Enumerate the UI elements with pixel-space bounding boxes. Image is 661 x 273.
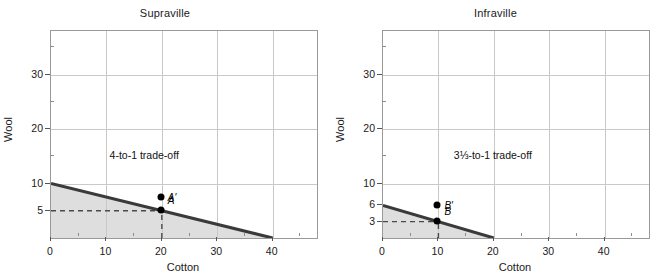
x-axis-title: Cotton bbox=[499, 261, 531, 273]
y-tick bbox=[377, 204, 382, 205]
y-tick-label: 3 bbox=[350, 215, 375, 227]
x-tick-label: 20 bbox=[487, 245, 499, 257]
x-tick bbox=[604, 237, 605, 241]
x-tick-label: 10 bbox=[432, 245, 444, 257]
y-tick bbox=[377, 74, 382, 75]
frontier-overlay bbox=[383, 31, 649, 238]
x-tick bbox=[272, 237, 273, 241]
x-minor-tick bbox=[78, 233, 79, 236]
x-minor-tick bbox=[410, 233, 411, 236]
x-tick-label: 10 bbox=[100, 245, 112, 257]
y-tick-label: 20 bbox=[18, 122, 43, 134]
y-axis-title: Wool bbox=[2, 117, 14, 142]
x-tick bbox=[105, 237, 106, 241]
x-minor-tick bbox=[133, 233, 134, 236]
x-tick bbox=[50, 237, 51, 241]
y-tick bbox=[377, 221, 382, 222]
data-point-label: A bbox=[168, 194, 175, 205]
x-tick-label: 0 bbox=[379, 245, 385, 257]
x-tick-label: 30 bbox=[542, 245, 554, 257]
tradeoff-annotation: 4-to-1 trade-off bbox=[110, 149, 179, 161]
y-tick-label: 10 bbox=[350, 177, 375, 189]
y-axis-title: Wool bbox=[334, 117, 346, 142]
y-tick-label: 30 bbox=[18, 68, 43, 80]
plot-area-supraville bbox=[50, 30, 318, 239]
x-tick bbox=[161, 237, 162, 241]
y-tick bbox=[377, 128, 382, 129]
x-tick-label: 30 bbox=[210, 245, 222, 257]
chart-panel-supraville: Supraville 4-to-1 trade-offA′A0102030405… bbox=[0, 0, 330, 273]
x-tick-label: 0 bbox=[47, 245, 53, 257]
x-tick-label: 20 bbox=[155, 245, 167, 257]
figure-panels: Supraville 4-to-1 trade-offA′A0102030405… bbox=[0, 0, 661, 273]
chart-title-infraville: Infraville bbox=[330, 7, 661, 19]
data-point-marker bbox=[157, 206, 164, 213]
x-minor-tick bbox=[244, 233, 245, 236]
x-minor-tick bbox=[576, 233, 577, 236]
frontier-overlay bbox=[51, 31, 317, 238]
x-minor-tick bbox=[465, 233, 466, 236]
x-minor-tick bbox=[631, 233, 632, 236]
x-tick bbox=[548, 237, 549, 241]
x-tick bbox=[437, 237, 438, 241]
data-point-marker bbox=[434, 217, 441, 224]
y-tick bbox=[45, 210, 50, 211]
y-tick bbox=[45, 74, 50, 75]
y-minor-tick bbox=[382, 101, 386, 102]
data-point-marker bbox=[157, 193, 164, 200]
y-minor-tick bbox=[50, 101, 54, 102]
x-tick bbox=[216, 237, 217, 241]
y-tick-label: 20 bbox=[350, 122, 375, 134]
x-tick-label: 40 bbox=[266, 245, 278, 257]
y-tick bbox=[45, 128, 50, 129]
chart-title-supraville: Supraville bbox=[0, 7, 330, 19]
x-minor-tick bbox=[521, 233, 522, 236]
y-minor-tick bbox=[382, 155, 386, 156]
x-minor-tick bbox=[299, 233, 300, 236]
y-tick bbox=[45, 183, 50, 184]
plot-area-infraville bbox=[382, 30, 650, 239]
y-tick-label: 5 bbox=[18, 204, 43, 216]
x-tick bbox=[493, 237, 494, 241]
y-tick-label: 10 bbox=[18, 177, 43, 189]
y-tick bbox=[377, 183, 382, 184]
x-axis-title: Cotton bbox=[167, 261, 199, 273]
data-point-marker bbox=[434, 201, 441, 208]
x-minor-tick bbox=[189, 233, 190, 236]
x-tick bbox=[382, 237, 383, 241]
y-minor-tick bbox=[50, 155, 54, 156]
data-point-label: B bbox=[444, 205, 451, 216]
y-minor-tick bbox=[382, 46, 386, 47]
tradeoff-annotation: 3⅓-to-1 trade-off bbox=[454, 149, 532, 161]
chart-panel-infraville: Infraville 3⅓-to-1 trade-offB′B010203040… bbox=[330, 0, 661, 273]
y-minor-tick bbox=[50, 46, 54, 47]
x-tick-label: 40 bbox=[598, 245, 610, 257]
y-tick-label: 30 bbox=[350, 68, 375, 80]
y-tick-label: 6 bbox=[350, 198, 375, 210]
